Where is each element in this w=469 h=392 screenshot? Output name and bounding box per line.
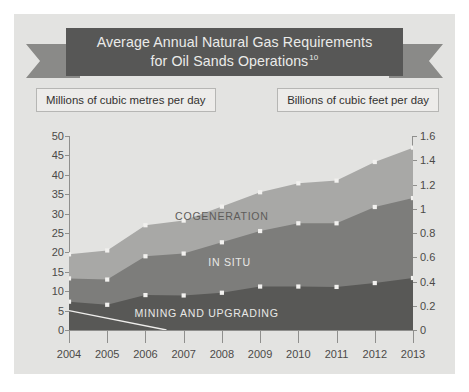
x-tick-label: 2012	[363, 348, 387, 360]
y-tick-label-left: 0	[30, 324, 64, 336]
x-tick	[337, 330, 338, 343]
data-point-marker	[334, 221, 338, 225]
data-point-marker	[258, 229, 262, 233]
left-axis-unit-label: Millions of cubic metres per day	[36, 88, 216, 112]
data-point-marker	[105, 248, 109, 252]
y-tick-left	[65, 175, 69, 176]
x-tick	[184, 330, 185, 343]
x-tick-label: 2011	[325, 348, 349, 360]
x-tick-label: 2010	[286, 348, 310, 360]
x-tick	[375, 330, 376, 343]
data-point-marker	[69, 276, 71, 280]
page-title: Average Annual Natural Gas Requirements …	[87, 33, 383, 70]
y-tick-right	[413, 306, 417, 307]
y-tick-left	[65, 272, 69, 273]
x-tick	[222, 330, 223, 343]
y-tick-left	[65, 311, 69, 312]
series-label-mining-and-upgrading: MINING AND UPGRADING	[135, 307, 279, 319]
y-tick-left	[65, 214, 69, 215]
data-point-marker	[105, 277, 109, 281]
y-tick-label-right: 0.6	[420, 251, 454, 263]
data-point-marker	[143, 254, 147, 258]
x-tick-label: 2009	[248, 348, 272, 360]
series-label-in-situ: IN SITU	[208, 256, 251, 268]
chart-plot-area: 05101520253035404550 00.20.40.60.811.21.…	[14, 126, 455, 358]
y-tick-label-left: 15	[30, 266, 64, 278]
x-tick-label: 2008	[210, 348, 234, 360]
y-tick-label-left: 25	[30, 227, 64, 239]
y-tick-label-right: 0	[420, 324, 454, 336]
y-tick-label-right: 0.8	[420, 227, 454, 239]
y-tick-right	[413, 257, 417, 258]
x-tick-label: 2007	[171, 348, 195, 360]
x-axis	[69, 330, 413, 331]
y-tick-right	[413, 282, 417, 283]
x-tick	[107, 330, 108, 343]
y-tick-label-left: 5	[30, 305, 64, 317]
y-tick-left	[65, 252, 69, 253]
y-tick-label-left: 35	[30, 188, 64, 200]
y-tick-label-right: 0.4	[420, 276, 454, 288]
y-tick-label-right: 1.6	[420, 130, 454, 142]
x-tick-label: 2013	[401, 348, 425, 360]
y-tick-label-right: 0.2	[420, 300, 454, 312]
data-point-marker	[258, 284, 262, 288]
y-tick-left	[65, 194, 69, 195]
title-line-1: Average Annual Natural Gas Requirements	[97, 34, 373, 50]
data-point-marker	[334, 285, 338, 289]
figure-panel: Average Annual Natural Gas Requirements …	[14, 14, 455, 374]
y-tick-right	[413, 136, 417, 137]
y-tick-label-left: 30	[30, 208, 64, 220]
y-tick-label-right: 1.4	[420, 154, 454, 166]
y-tick-left	[65, 136, 69, 137]
y-tick-label-right: 1.2	[420, 179, 454, 191]
x-tick	[413, 330, 414, 343]
series-label-cogeneration: COGENERATION	[175, 210, 269, 222]
data-point-marker	[143, 293, 147, 297]
y-tick-label-left: 45	[30, 149, 64, 161]
data-point-marker	[411, 276, 413, 280]
y-tick-label-left: 40	[30, 169, 64, 181]
banner-plate: Average Annual Natural Gas Requirements …	[66, 28, 403, 76]
data-point-marker	[373, 205, 377, 209]
x-tick-label: 2006	[133, 348, 157, 360]
x-tick-label: 2005	[95, 348, 119, 360]
stacked-area-plot	[69, 136, 413, 330]
data-point-marker	[220, 240, 224, 244]
x-tick	[260, 330, 261, 343]
y-tick-right	[413, 233, 417, 234]
data-point-marker	[69, 300, 71, 304]
data-point-marker	[373, 281, 377, 285]
data-point-marker	[258, 190, 262, 194]
y-tick-left	[65, 291, 69, 292]
y-tick-left	[65, 155, 69, 156]
x-tick	[145, 330, 146, 343]
data-point-marker	[182, 293, 186, 297]
data-point-marker	[411, 196, 413, 200]
x-tick	[298, 330, 299, 343]
data-point-marker	[220, 291, 224, 295]
data-point-marker	[69, 252, 71, 256]
y-tick-label-right: 1	[420, 203, 454, 215]
data-point-marker	[296, 284, 300, 288]
data-point-marker	[334, 179, 338, 183]
y-tick-label-left: 10	[30, 285, 64, 297]
y-tick-right	[413, 160, 417, 161]
x-tick	[69, 330, 70, 343]
data-point-marker	[182, 251, 186, 255]
data-point-marker	[411, 146, 413, 150]
y-tick-left	[65, 233, 69, 234]
title-line-2: for Oil Sands Operations	[151, 53, 309, 69]
data-point-marker	[220, 205, 224, 209]
title-footnote-marker: 10	[309, 53, 318, 62]
chart-title-banner: Average Annual Natural Gas Requirements …	[14, 28, 455, 80]
y-tick-right	[413, 185, 417, 186]
data-point-marker	[143, 223, 147, 227]
right-axis-unit-label: Billions of cubic feet per day	[277, 88, 439, 112]
area-chart-svg	[69, 136, 413, 330]
data-point-marker	[296, 221, 300, 225]
y-tick-label-left: 20	[30, 246, 64, 258]
data-point-marker	[296, 181, 300, 185]
data-point-marker	[373, 160, 377, 164]
x-tick-label: 2004	[57, 348, 81, 360]
